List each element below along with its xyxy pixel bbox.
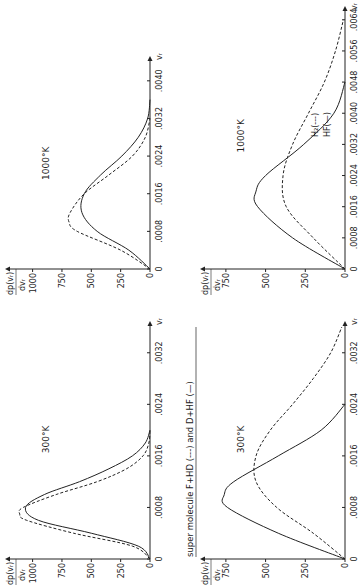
x-tick-label: .0040 bbox=[350, 102, 359, 125]
y-tick-label: 250 bbox=[117, 563, 126, 578]
y-axis-label: dp(vᵣ) bbox=[201, 272, 210, 295]
x-tick-label: 0 bbox=[350, 556, 359, 561]
h2-hf-300K-chart: 0.0008.0016.0024.0032vᵣ0250500750dp(vᵣ)d… bbox=[200, 317, 359, 585]
y-tick-label: 250 bbox=[117, 273, 126, 288]
y-tick-label: 500 bbox=[87, 273, 96, 288]
solid-curve bbox=[81, 100, 150, 269]
y-tick-label: 250 bbox=[301, 273, 310, 288]
x-tick-label: .0008 bbox=[155, 496, 164, 519]
y-tick-label: 0 bbox=[146, 563, 155, 568]
solid-curve bbox=[254, 82, 345, 269]
dashed-curve bbox=[68, 118, 150, 269]
y-axis-label-den: dvᵣ bbox=[18, 568, 27, 581]
legend-h2: H₂(---) bbox=[311, 113, 320, 137]
x-tick-label: .0040 bbox=[155, 69, 164, 92]
x-tick-label: .0008 bbox=[350, 226, 359, 249]
y-axis-label-den: dvᵣ bbox=[18, 278, 27, 291]
y-axis-label: dp(vᵣ) bbox=[6, 272, 15, 295]
y-tick-label: 0 bbox=[341, 563, 350, 568]
dashed-curve bbox=[254, 327, 345, 559]
y-axis-label-den: dvᵣ bbox=[213, 278, 222, 291]
y-tick-label: 1000 bbox=[29, 273, 38, 293]
y-tick-label: 500 bbox=[262, 563, 271, 578]
x-tick-label: 0 bbox=[155, 266, 164, 271]
x-tick-label: .0008 bbox=[155, 220, 164, 243]
x-tick-label: .0032 bbox=[350, 133, 359, 156]
x-tick-label: .0024 bbox=[155, 145, 164, 168]
legend-hf: HF(—) bbox=[323, 112, 332, 137]
y-tick-label: 500 bbox=[87, 563, 96, 578]
x-tick-label: .0024 bbox=[350, 164, 359, 187]
y-tick-label: 750 bbox=[222, 563, 231, 578]
y-tick-label: 500 bbox=[262, 273, 271, 288]
x-tick-label: .0032 bbox=[155, 341, 164, 364]
super-molecule-1000K-chart: 0.0008.0016.0024.0032.0040vᵣ025050075010… bbox=[5, 52, 164, 295]
y-axis-label-den: dvᵣ bbox=[213, 568, 222, 581]
y-tick-label: 0 bbox=[146, 273, 155, 278]
figure: 0.0008.0016.0024.0032vᵣ02505007501000dp(… bbox=[0, 0, 363, 587]
y-axis-label: dp(vᵣ) bbox=[201, 562, 210, 585]
x-axis-label: vᵣ bbox=[155, 317, 164, 325]
y-tick-label: 1000 bbox=[29, 563, 38, 583]
dashed-curve bbox=[282, 20, 345, 269]
x-tick-label: .0048 bbox=[350, 71, 359, 94]
x-tick-label: .0008 bbox=[350, 496, 359, 519]
x-tick-label: .0016 bbox=[350, 195, 359, 218]
x-tick-label: 0 bbox=[155, 556, 164, 561]
h2-hf-1000K-chart: 0.0008.0016.0024.0032.0040.0048.0056.006… bbox=[200, 2, 359, 295]
x-tick-label: .0032 bbox=[350, 341, 359, 364]
panel-title: 300°K bbox=[236, 425, 246, 454]
panel-title: 300°K bbox=[41, 425, 51, 454]
x-tick-label: .0064 bbox=[350, 8, 359, 31]
x-tick-label: .0032 bbox=[155, 107, 164, 130]
y-tick-label: 750 bbox=[58, 563, 67, 578]
dashed-curve bbox=[19, 430, 150, 559]
y-tick-label: 750 bbox=[58, 273, 67, 288]
x-axis-label: vᵣ bbox=[350, 317, 359, 325]
panel-title: 1000°K bbox=[41, 146, 51, 180]
super-molecule-300K-chart: 0.0008.0016.0024.0032vᵣ02505007501000dp(… bbox=[5, 317, 164, 585]
x-tick-label: .0016 bbox=[350, 444, 359, 467]
x-tick-label: .0016 bbox=[155, 182, 164, 205]
x-tick-label: 0 bbox=[350, 266, 359, 271]
panel-title: 1000°K bbox=[236, 118, 246, 152]
y-tick-label: 250 bbox=[301, 563, 310, 578]
y-tick-label: 0 bbox=[341, 273, 350, 278]
super-molecule-caption: super molecule F+HD (---) and D+HF (—) bbox=[185, 381, 195, 557]
x-tick-label: .0056 bbox=[350, 39, 359, 62]
x-tick-label: .0024 bbox=[350, 393, 359, 416]
rotated-figure-group: 0.0008.0016.0024.0032vᵣ02505007501000dp(… bbox=[5, 2, 359, 585]
y-axis-label: dp(vᵣ) bbox=[6, 562, 15, 585]
y-tick-label: 750 bbox=[222, 273, 231, 288]
x-axis-label: vᵣ bbox=[155, 52, 164, 60]
x-tick-label: .0016 bbox=[155, 444, 164, 467]
x-axis-label: vᵣ bbox=[350, 2, 359, 10]
x-tick-label: .0024 bbox=[155, 393, 164, 416]
